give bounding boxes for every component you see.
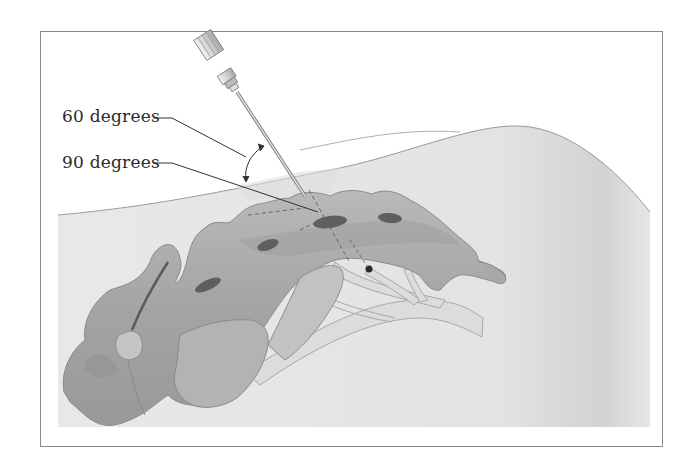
- sacrum-needle-illustration: [0, 0, 696, 471]
- needle: [194, 29, 305, 196]
- angle-arc-arrow: [243, 144, 264, 182]
- label-60-degrees: 60 degrees: [62, 106, 160, 126]
- label-90-degrees: 90 degrees: [62, 152, 160, 172]
